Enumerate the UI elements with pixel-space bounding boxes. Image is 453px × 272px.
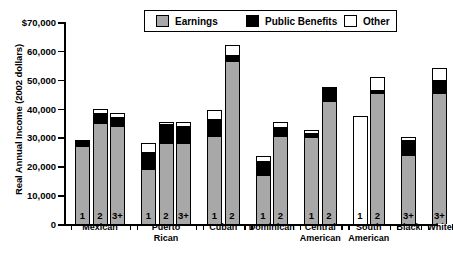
bar-segment-pub <box>273 127 288 136</box>
x-group-tick <box>203 224 205 230</box>
x-bar-label: 2 <box>326 210 331 221</box>
bar-segment-oth <box>353 116 368 224</box>
legend-item-public-benefits: Public Benefits <box>246 15 337 27</box>
x-bar-label: 2 <box>375 210 380 221</box>
y-tick-label-40000: 40,000 <box>27 103 56 114</box>
bar-segment-oth <box>225 45 240 55</box>
x-group-tick <box>137 224 139 230</box>
y-tick-70000 <box>58 22 64 24</box>
public-benefits-swatch-icon <box>246 15 259 27</box>
y-tick-10000 <box>58 195 64 197</box>
bar-segment-earn <box>370 93 385 224</box>
bar-segment-earn <box>93 123 108 224</box>
bar-segment-oth <box>207 110 222 119</box>
y-tick-30000 <box>58 137 64 139</box>
bar-segment-oth <box>432 68 447 80</box>
x-group-label-line: Dominican <box>249 222 295 233</box>
stacked-bar <box>273 122 288 224</box>
stacked-bar <box>207 110 222 224</box>
earnings-swatch-icon <box>156 15 169 27</box>
x-bar-label: 1 <box>80 210 85 221</box>
bar-segment-pub <box>207 119 222 136</box>
x-group-tick <box>341 224 343 230</box>
bar-segment-pub <box>401 140 416 154</box>
x-group-label: Mexican <box>82 222 118 233</box>
stacked-bar <box>159 122 174 224</box>
x-group-label: White <box>427 222 452 233</box>
stacked-bar <box>432 68 447 224</box>
x-bar-label: 1 <box>309 210 314 221</box>
x-bar-label: 2 <box>163 210 168 221</box>
stacked-bar <box>322 87 337 224</box>
stacked-bar <box>225 45 240 224</box>
x-group-label-line: Central <box>300 222 341 233</box>
chart-legend: Earnings Public Benefits Other <box>144 10 397 32</box>
y-tick-label-60000: 60,000 <box>27 45 56 56</box>
x-group-tick <box>421 224 423 230</box>
bar-segment-pub <box>256 161 271 175</box>
stacked-bar <box>370 77 385 224</box>
x-group-label: Cuban <box>209 222 237 233</box>
x-bar-label: 1 <box>357 210 362 221</box>
bar-segment-pub <box>141 152 156 169</box>
x-bar-label: 3+ <box>434 210 445 221</box>
y-tick-40000 <box>58 109 64 111</box>
y-tick-label-10000: 10,000 <box>27 190 56 201</box>
legend-label-other: Other <box>363 16 390 27</box>
y-tick-label-50000: 50,000 <box>27 74 56 85</box>
x-group-label: SouthAmerican <box>348 222 389 243</box>
stacked-bar <box>353 116 368 224</box>
x-bar-label: 1 <box>146 210 151 221</box>
bar-segment-pub <box>159 124 174 143</box>
y-axis-title: Real Annual Income (2002 dollars) <box>13 20 24 220</box>
bar-segment-pub <box>322 88 337 101</box>
plot-area: $70,000 60,000 50,000 40,000 30,000 20,0… <box>64 22 438 224</box>
legend-label-earnings: Earnings <box>175 16 218 27</box>
bar-segment-pub <box>432 80 447 93</box>
x-group-tick <box>130 224 132 230</box>
x-group-label-line: Puerto <box>152 222 181 233</box>
stacked-bar <box>176 122 191 224</box>
x-bar-label: 2 <box>229 210 234 221</box>
x-group-label-line: White <box>427 222 452 233</box>
y-tick-label-20000: 20,000 <box>27 161 56 172</box>
x-group-label-line: South <box>348 222 389 233</box>
y-tick-label-70000: $70,000 <box>22 17 56 28</box>
bar-segment-earn <box>432 93 447 224</box>
bar-segment-earn <box>322 101 337 224</box>
x-group-label-line: Cuban <box>209 222 237 233</box>
x-group-label-line: American <box>348 233 389 244</box>
legend-item-earnings: Earnings <box>156 15 218 27</box>
x-group-tick <box>390 224 392 230</box>
y-tick-0 <box>58 224 64 226</box>
x-bar-label: 3+ <box>112 210 123 221</box>
y-tick-50000 <box>58 80 64 82</box>
x-bar-label: 1 <box>260 210 265 221</box>
bar-segment-pub <box>93 113 108 123</box>
stacked-bar <box>110 113 125 224</box>
legend-label-public-benefits: Public Benefits <box>265 16 337 27</box>
legend-item-other: Other <box>344 15 390 27</box>
bar-segment-pub <box>110 117 125 126</box>
y-axis-line <box>64 22 66 224</box>
stacked-bar <box>93 109 108 224</box>
bar-segment-oth <box>141 143 156 152</box>
x-bar-label: 2 <box>278 210 283 221</box>
y-tick-60000 <box>58 51 64 53</box>
x-group-tick <box>71 224 73 230</box>
x-group-tick <box>196 224 198 230</box>
x-bar-label: 2 <box>97 210 102 221</box>
x-group-label-line: Mexican <box>82 222 118 233</box>
bar-segment-earn <box>225 61 240 224</box>
bar-segment-oth <box>370 77 385 90</box>
x-group-label: PuertoRican <box>152 222 181 243</box>
x-group-tick <box>244 224 246 230</box>
y-tick-label-0: 0 <box>51 219 56 230</box>
x-group-label: Dominican <box>249 222 295 233</box>
other-swatch-icon <box>344 15 357 27</box>
x-group-label-line: Black <box>396 222 420 233</box>
x-bar-label: 3+ <box>403 210 414 221</box>
bar-segment-pub <box>176 126 191 143</box>
x-group-label-line: American <box>300 233 341 244</box>
